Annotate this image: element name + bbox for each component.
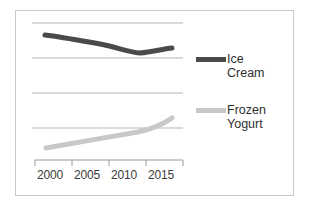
line-chart: 2000 2005 2010 2015 Ice Cream Frozen Yog… xyxy=(0,0,313,211)
legend-swatch-frozen-yogurt xyxy=(196,108,226,113)
legend-label-ice-cream-line1: Ice xyxy=(226,52,244,66)
x-axis-label-2000: 2000 xyxy=(31,168,69,182)
legend-label-frozen-yogurt-line2: Yogurt xyxy=(196,117,292,132)
legend-label-ice-cream-line2: Cream xyxy=(196,66,292,81)
x-axis-label-2015: 2015 xyxy=(142,168,180,182)
legend-swatch-ice-cream xyxy=(196,57,226,62)
legend-entry-ice-cream[interactable]: Ice Cream xyxy=(196,52,292,81)
series-line-frozen-yogurt xyxy=(46,118,172,148)
legend-label-frozen-yogurt-line1: Frozen xyxy=(226,103,266,117)
x-axis-label-2005: 2005 xyxy=(68,168,106,182)
legend-entry-frozen-yogurt[interactable]: Frozen Yogurt xyxy=(196,103,292,132)
x-axis-label-2010: 2010 xyxy=(105,168,143,182)
chart-legend: Ice Cream Frozen Yogurt xyxy=(196,52,292,154)
x-axis xyxy=(35,160,183,166)
series-line-ice-cream xyxy=(45,35,172,53)
